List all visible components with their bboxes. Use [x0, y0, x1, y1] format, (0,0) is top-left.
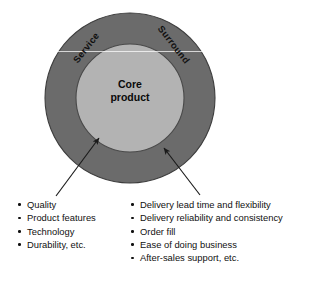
surround-attribute-item: Ease of doing business [130, 238, 283, 251]
core-product-label-line1: Core [88, 78, 172, 91]
surround-attribute-item: After-sales support, etc. [130, 251, 283, 264]
core-attribute-item: Technology [17, 225, 96, 238]
core-attribute-item: Quality [17, 198, 96, 211]
diagram-canvas: Service Surround Core product QualityPro… [0, 0, 315, 283]
surround-attribute-item: Delivery lead time and flexibility [130, 198, 283, 211]
surround-attribute-item: Order fill [130, 225, 283, 238]
core-attribute-item: Product features [17, 211, 96, 224]
surround-attribute-item: Delivery reliability and consistency [130, 211, 283, 224]
core-attributes-list: QualityProduct featuresTechnologyDurabil… [17, 198, 96, 251]
surround-attributes-list: Delivery lead time and flexibilityDelive… [130, 198, 283, 264]
core-product-label-line2: product [88, 91, 172, 104]
core-attribute-item: Durability, etc. [17, 238, 96, 251]
core-product-label: Core product [88, 78, 172, 104]
